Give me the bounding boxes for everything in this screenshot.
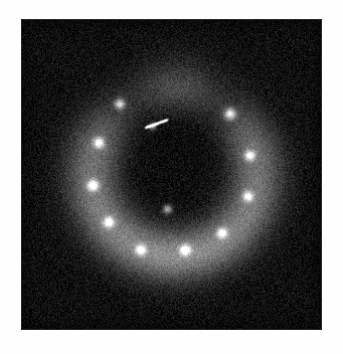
grayscale-field-canvas[interactable]	[22, 20, 321, 329]
figure-root	[0, 0, 343, 354]
image-panel[interactable]	[21, 19, 322, 330]
